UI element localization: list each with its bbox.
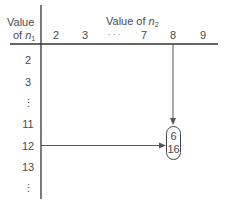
row-header-line2: of n1 [13,29,35,45]
row-label: ⋮ [23,97,34,109]
row-header-line1: Value [7,16,34,28]
row-label: 11 [22,118,33,130]
highlight-value-top: 6 [170,130,176,142]
row-label: 12 [22,140,34,152]
arrow-down-icon [170,118,176,125]
row-label: ⋮ [23,182,34,194]
column-label: · · · [108,29,120,41]
arrow-right-icon [159,143,166,149]
row-label: 2 [25,54,31,66]
highlight-value-bottom: 16 [167,143,179,155]
row-label: 13 [22,161,34,173]
column-label: 8 [170,29,176,41]
column-label: 7 [141,29,147,41]
row-label: 3 [25,76,31,88]
column-label: 3 [82,29,88,41]
column-label: 2 [53,29,59,41]
column-label: 9 [200,29,206,41]
